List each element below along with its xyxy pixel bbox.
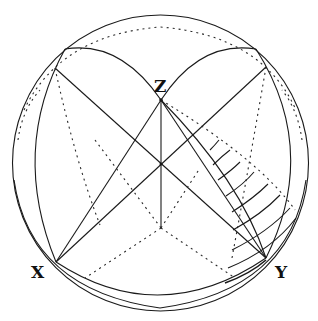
great-circle-right — [256, 49, 291, 258]
hidden-arc-right-inner — [232, 67, 266, 258]
z-to-x-line — [56, 100, 161, 262]
sphere-lower-shell — [14, 180, 306, 308]
hidden-line-to-lower-right — [161, 228, 235, 278]
arc-upper-left — [65, 48, 161, 100]
z-point — [159, 98, 163, 102]
hidden-arc-left-inner — [55, 68, 100, 225]
hatch-outer-dotted — [161, 100, 295, 210]
hidden-upper-circle — [24, 27, 296, 110]
y-label: Y — [274, 262, 288, 282]
z-label: Z — [154, 76, 166, 96]
sphere-diagram: Z X Y — [0, 0, 318, 321]
great-circle-left — [35, 49, 65, 262]
hidden-line-to-lower-left — [85, 228, 161, 278]
x-label: X — [31, 262, 45, 282]
hidden-line-upper-right — [161, 168, 200, 228]
arc-upper-right — [161, 48, 256, 100]
diagram-canvas: Z X Y — [0, 0, 318, 321]
equator-front-arc — [56, 258, 266, 295]
z-to-y-line — [161, 100, 266, 258]
hatch-ribs — [210, 140, 296, 268]
hidden-line-upper-left — [95, 140, 161, 228]
center-point — [160, 163, 163, 166]
